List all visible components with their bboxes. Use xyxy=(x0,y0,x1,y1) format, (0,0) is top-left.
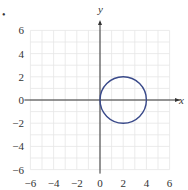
coordinate-plane-chart: • −6−4−20246−6−4−20246 x y xyxy=(0,0,188,190)
x-tick-label: −4 xyxy=(48,177,60,189)
x-tick-label: −6 xyxy=(25,177,37,189)
x-tick-label: 0 xyxy=(97,177,103,189)
y-axis-label: y xyxy=(97,3,103,15)
axes xyxy=(24,20,180,174)
y-tick-label: 2 xyxy=(19,71,25,83)
x-tick-label: 4 xyxy=(144,177,150,189)
y-tick-label: 0 xyxy=(19,94,25,106)
y-tick-label: −4 xyxy=(12,140,24,152)
y-tick-label: −2 xyxy=(12,117,24,129)
x-tick-label: 2 xyxy=(120,177,126,189)
y-axis-arrow-icon xyxy=(98,20,102,25)
x-axis-label: x xyxy=(178,94,184,106)
y-tick-label: −6 xyxy=(12,164,24,176)
y-tick-label: 6 xyxy=(19,24,25,36)
x-tick-label: 6 xyxy=(167,177,173,189)
x-tick-label: −2 xyxy=(71,177,83,189)
y-tick-label: 4 xyxy=(19,48,25,60)
tick-labels: −6−4−20246−6−4−20246 xyxy=(12,24,173,189)
problem-bullet: • xyxy=(2,9,6,20)
